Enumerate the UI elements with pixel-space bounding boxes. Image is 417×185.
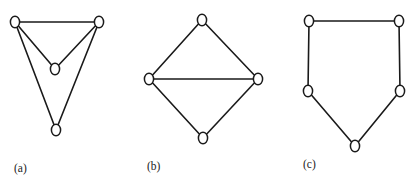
graph-edge (308, 21, 309, 91)
vertex-group-c (303, 15, 404, 152)
graph-figure-canvas: (a)(b)(c) (0, 0, 417, 185)
a-top-left (10, 16, 19, 28)
graph-edge (203, 79, 258, 138)
graph-edge (202, 20, 258, 79)
panel-caption-b: (b) (147, 160, 161, 173)
c-middle-left (303, 85, 312, 97)
graph-edge (355, 91, 400, 146)
c-top-left (304, 15, 313, 27)
panel-caption-a: (a) (14, 162, 27, 175)
a-top-right (94, 16, 103, 28)
graph-edge (149, 20, 202, 79)
graph-panel-c: (c) (303, 15, 405, 170)
c-middle-right (395, 85, 404, 97)
graph-edge (15, 22, 56, 130)
c-bottom (350, 140, 359, 152)
panel-caption-c: (c) (303, 158, 316, 171)
figure-root: (a)(b)(c) (0, 0, 417, 185)
edge-group-a (15, 22, 99, 130)
b-right (253, 73, 262, 85)
graph-edge (149, 79, 203, 138)
graph-edge (399, 21, 400, 91)
a-bottom (51, 124, 60, 136)
b-left (144, 73, 153, 85)
graph-edge (55, 22, 99, 69)
graph-edge (15, 22, 55, 69)
b-bottom (198, 132, 207, 144)
graph-panel-a: (a) (10, 16, 103, 174)
edge-group-b (149, 20, 258, 138)
b-top (197, 14, 206, 26)
graph-edge (308, 91, 355, 146)
graph-edge (56, 22, 99, 130)
c-top-right (394, 15, 403, 27)
edge-group-c (308, 21, 400, 146)
a-middle (50, 63, 59, 75)
panels-layer: (a)(b)(c) (10, 14, 404, 174)
graph-panel-b: (b) (144, 14, 262, 172)
